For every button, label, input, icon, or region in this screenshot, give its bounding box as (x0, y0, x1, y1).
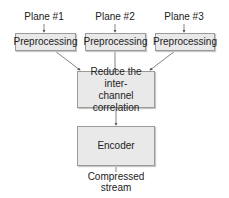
plane-1-label: Plane #1 (24, 11, 64, 22)
encoder-box: Encoder (77, 126, 155, 166)
preprocessing-box-1: Preprocessing (15, 33, 76, 51)
edge-pre1-reduce (55, 51, 80, 70)
output-line-1: Compressed (86, 171, 146, 182)
reduce-line-2: channel correlation (78, 90, 154, 114)
output-line-2: stream (86, 182, 146, 193)
preprocessing-box-2: Preprocessing (85, 33, 146, 51)
reduce-line-1: Reduce the inter- (78, 66, 154, 90)
plane-2-label: Plane #2 (95, 11, 135, 22)
preprocessing-box-3: Preprocessing (155, 33, 215, 51)
reduce-correlation-box: Reduce the inter- channel correlation (77, 71, 155, 108)
compressed-stream-label: Compressed stream (86, 171, 146, 193)
plane-3-label: Plane #3 (164, 11, 204, 22)
